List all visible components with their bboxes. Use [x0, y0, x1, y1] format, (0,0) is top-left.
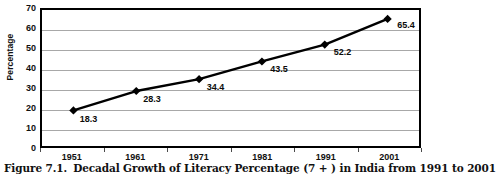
x-tick-mark-0 [40, 148, 41, 152]
data-point-marker-1991 [321, 41, 329, 49]
y-tick-label-0: 0 [14, 144, 36, 153]
x-tick-label-1961: 1961 [125, 152, 145, 162]
data-label-1961: 28.3 [143, 95, 161, 104]
y-tick-label-70: 70 [14, 4, 36, 13]
plot-area: 18.328.334.443.552.265.4 [40, 8, 421, 148]
x-tick-mark-4 [294, 148, 295, 152]
figure-caption: Figure 7.1.Decadal Growth of Literacy Pe… [4, 162, 428, 174]
y-tick-label-30: 30 [14, 84, 36, 93]
plot-inner: 18.328.334.443.552.265.4 [42, 10, 419, 146]
y-tick-label-10: 10 [14, 124, 36, 133]
x-tick-label-1971: 1971 [189, 152, 209, 162]
data-point-marker-2001 [383, 15, 391, 23]
figure-caption-number: Figure 7.1. [4, 162, 67, 174]
data-point-marker-1971 [195, 75, 203, 83]
x-tick-mark-1 [104, 148, 105, 152]
x-axis-tick-labels: 195119611971198119912001 [40, 148, 421, 160]
figure-caption-text: Decadal Growth of Literacy Percentage (7… [73, 162, 496, 174]
x-tick-mark-6 [421, 148, 422, 152]
y-tick-label-60: 60 [14, 24, 36, 33]
y-axis-tick-labels: 706050403020100 [14, 8, 36, 148]
data-point-marker-1951 [69, 106, 77, 114]
data-point-marker-1961 [132, 87, 140, 95]
data-label-2001: 65.4 [397, 21, 415, 30]
y-tick-label-40: 40 [14, 64, 36, 73]
data-label-1981: 43.5 [270, 65, 288, 74]
x-tick-label-1951: 1951 [62, 152, 82, 162]
x-tick-mark-3 [231, 148, 232, 152]
data-label-1971: 34.4 [207, 83, 225, 92]
y-tick-label-20: 20 [14, 104, 36, 113]
data-label-1951: 18.3 [80, 115, 98, 124]
x-tick-label-1981: 1981 [252, 152, 272, 162]
y-tick-label-50: 50 [14, 44, 36, 53]
x-tick-mark-5 [358, 148, 359, 152]
x-tick-label-2001: 2001 [379, 152, 399, 162]
data-label-1991: 52.2 [334, 48, 352, 57]
x-tick-label-1991: 1991 [316, 152, 336, 162]
series-line-literacy [42, 10, 419, 146]
line-chart: Percentage 706050403020100 18.328.334.44… [0, 0, 431, 160]
x-tick-mark-2 [167, 148, 168, 152]
data-point-marker-1981 [258, 57, 266, 65]
